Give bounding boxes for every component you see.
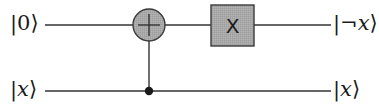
ket-content: x: [17, 77, 29, 101]
output-label-qubit-x: |x⟩: [333, 79, 360, 100]
input-label-qubit-0: |0⟩: [10, 13, 39, 34]
ket-close: ⟩: [370, 11, 378, 35]
ket-content: 0: [17, 11, 30, 35]
input-label-qubit-x: |x⟩: [10, 79, 37, 100]
ket-close: ⟩: [30, 11, 38, 35]
cnot-control-dot: [145, 87, 153, 95]
x-gate-label: X: [226, 14, 240, 38]
output-label-qubit-0: |¬x⟩: [333, 13, 378, 34]
ket-close: ⟩: [352, 77, 360, 101]
cnot-target-icon: [133, 9, 165, 41]
ket-content: x: [340, 77, 352, 101]
ket-close: ⟩: [29, 77, 37, 101]
x-gate: X: [211, 5, 254, 46]
quantum-circuit-diagram: X: [0, 0, 379, 109]
ket-content: ¬x: [340, 11, 369, 35]
